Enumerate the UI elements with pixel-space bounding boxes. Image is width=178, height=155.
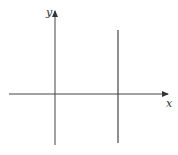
x-axis-label: x [166, 97, 173, 110]
y-axis-label: y [45, 6, 53, 19]
coordinate-diagram: y x [0, 0, 178, 155]
